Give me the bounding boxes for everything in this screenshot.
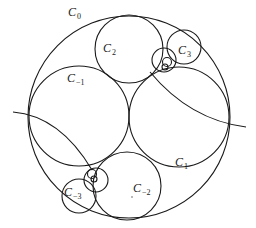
diagram-canvas bbox=[0, 0, 256, 228]
label-c-minus-1: C−1 bbox=[67, 72, 85, 87]
label-c0: C0 bbox=[68, 6, 81, 21]
label-c1: C1 bbox=[175, 156, 188, 171]
apollonian-gasket-diagram: C0 C2 C3 C−1 C1 C−2 C−3 bbox=[0, 0, 256, 228]
right-arc bbox=[150, 72, 246, 127]
label-c-minus-2: C−2 bbox=[133, 182, 151, 197]
left-arc bbox=[13, 112, 92, 170]
label-c3: C3 bbox=[178, 44, 191, 59]
label-c2: C2 bbox=[103, 42, 116, 57]
label-c-minus-3: C−3 bbox=[64, 186, 82, 201]
circle-c1 bbox=[129, 67, 229, 167]
circle-cminus-2 bbox=[93, 152, 161, 220]
